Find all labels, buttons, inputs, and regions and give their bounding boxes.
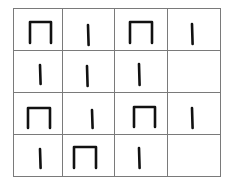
bar-icon — [40, 65, 41, 84]
grid-cell — [13, 134, 62, 176]
bar-icon — [40, 149, 41, 168]
grid-cell — [114, 92, 167, 134]
grid-cell-r1-c2 — [114, 50, 167, 92]
grid-cell-r0-c0 — [13, 8, 62, 50]
grid-cell-r1-c3 — [167, 50, 220, 92]
grid-cell — [167, 134, 220, 176]
arch-icon — [130, 22, 152, 43]
bar-icon — [92, 110, 93, 128]
grid-cell — [62, 92, 114, 134]
bar-icon — [139, 64, 140, 85]
grid-cell-r0-c1 — [62, 8, 114, 50]
grid-cell-r2-c3 — [167, 92, 220, 134]
bar-icon — [192, 24, 193, 44]
grid-cell-r0-c3 — [167, 8, 220, 50]
grid-cell — [167, 50, 220, 92]
arch-icon — [30, 22, 51, 43]
arch-icon — [134, 107, 155, 127]
grid-cell-r1-c0 — [13, 50, 62, 92]
grid-cell-r2-c2 — [114, 92, 167, 134]
grid-lines — [13, 8, 221, 177]
symbol-grid — [0, 0, 232, 187]
grid-cell-r3-c1 — [62, 134, 114, 176]
grid-cell-r3-c0 — [13, 134, 62, 176]
grid-cell — [62, 134, 114, 176]
grid-cell — [13, 92, 62, 134]
arch-icon — [74, 147, 96, 168]
arch-icon — [28, 108, 50, 128]
bar-icon — [87, 66, 88, 86]
grid-cell-r3-c3 — [167, 134, 220, 176]
grid-cell — [13, 8, 62, 50]
grid-cell-r0-c2 — [114, 8, 167, 50]
bar-icon — [192, 108, 193, 128]
bar-icon — [139, 148, 140, 168]
grid-cell — [114, 8, 167, 50]
bar-icon — [88, 25, 89, 45]
grid-cell-r2-c0 — [13, 92, 62, 134]
grid-cell-r2-c1 — [62, 92, 114, 134]
grid-cell-r1-c1 — [62, 50, 114, 92]
grid-cell-r3-c2 — [114, 134, 167, 176]
grid-cell — [13, 50, 62, 92]
